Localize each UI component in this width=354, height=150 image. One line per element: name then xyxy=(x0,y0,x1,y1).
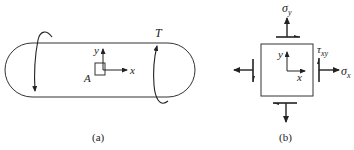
shaft-outline xyxy=(5,43,195,97)
torque-arrow-left-icon xyxy=(35,32,52,91)
axis-x-label-b: x xyxy=(296,71,302,83)
tau-xy-label: τxy xyxy=(317,43,328,58)
torque-arrow-right-icon xyxy=(154,46,168,103)
sigma-y-label: σy xyxy=(282,1,292,17)
torque-label: T xyxy=(155,26,163,40)
shear-arrow-right-icon xyxy=(317,58,319,64)
caption-a: (a) xyxy=(92,131,105,144)
caption-b: (b) xyxy=(279,131,292,144)
panel-b: y x σy σx τxy (b) xyxy=(234,1,351,144)
axis-y-label-b: y xyxy=(277,48,283,60)
figure-canvas: T x y A (a) y x σy xyxy=(0,0,354,150)
sigma-x-label: σx xyxy=(341,64,351,80)
point-a-label: A xyxy=(83,72,91,84)
axis-y-label-a: y xyxy=(93,44,99,56)
axis-x-label-a: x xyxy=(129,64,135,76)
panel-a: T x y A (a) xyxy=(5,26,195,144)
